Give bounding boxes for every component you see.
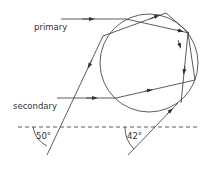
raindrop-circle [100,14,198,112]
rainbow-diagram: primary secondary 50° 42° [0,0,209,171]
secondary-label: secondary [13,101,57,111]
angle-50-label: 50° [36,131,51,141]
primary-ray-path [47,13,189,155]
angle-42-label: 42° [127,131,142,141]
primary-label: primary [34,22,67,32]
